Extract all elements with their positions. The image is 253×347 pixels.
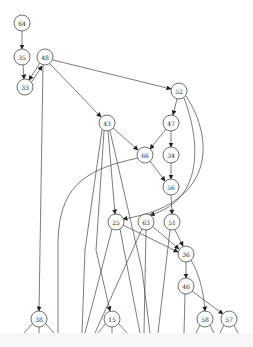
edge-66-down [58, 158, 138, 333]
edge-38-out3 [45, 323, 54, 333]
node-63[interactable]: 63 [138, 214, 154, 230]
node-label: 35 [18, 54, 26, 61]
graph-canvas: 64 35 48 33 52 43 47 66 34 56 25 63 51 3… [0, 0, 253, 347]
node-label: 46 [182, 283, 190, 290]
node-label: 56 [167, 184, 175, 191]
edge-51-36 [175, 230, 183, 246]
nodes: 64 35 48 33 52 43 47 66 34 56 25 63 51 3… [14, 15, 237, 327]
node-51[interactable]: 51 [164, 214, 180, 230]
node-label: 51 [168, 219, 176, 226]
node-label: 25 [112, 219, 120, 226]
edge-43-25 [108, 131, 115, 214]
edge-57-out1 [220, 325, 224, 333]
edge-43-66 [113, 128, 138, 150]
node-43[interactable]: 43 [99, 115, 115, 131]
node-35[interactable]: 35 [14, 49, 30, 65]
edge-48-38 [39, 65, 43, 311]
node-46[interactable]: 46 [178, 278, 194, 294]
edge-35-33 [23, 65, 24, 79]
edge-66-56 [150, 161, 165, 181]
node-33[interactable]: 33 [17, 79, 33, 95]
node-15[interactable]: 15 [104, 311, 120, 327]
node-label: 43 [103, 120, 111, 127]
edge-63-down2 [144, 230, 146, 333]
edge-46-57 [192, 291, 223, 314]
edge-47-66 [150, 129, 166, 149]
node-label: 15 [108, 316, 116, 323]
edge-38-out1 [24, 323, 33, 333]
bottom-band [0, 333, 253, 347]
node-56[interactable]: 56 [163, 179, 179, 195]
node-label: 38 [35, 316, 43, 323]
edge-48-52 [53, 60, 171, 89]
node-66[interactable]: 66 [137, 147, 153, 163]
node-48[interactable]: 48 [37, 49, 53, 65]
node-label: 47 [167, 120, 175, 127]
edge-25-down2 [120, 229, 140, 333]
edges [22, 31, 238, 333]
node-47[interactable]: 47 [163, 115, 179, 131]
node-34[interactable]: 34 [163, 147, 179, 163]
node-label: 63 [142, 219, 150, 226]
node-label: 33 [21, 84, 29, 91]
edge-52-47 [173, 99, 177, 115]
edge-58-out1 [196, 325, 200, 333]
edge-58-out2 [210, 325, 214, 333]
node-38[interactable]: 38 [31, 311, 47, 327]
node-64[interactable]: 64 [14, 15, 30, 31]
node-label: 34 [167, 152, 175, 159]
edge-15-out3 [118, 323, 127, 333]
edge-48-43 [50, 64, 101, 117]
node-label: 52 [175, 88, 183, 95]
node-label: 66 [141, 152, 149, 159]
edge-43-downleft [82, 130, 102, 333]
node-label: 58 [201, 316, 209, 323]
node-57[interactable]: 57 [221, 311, 237, 327]
node-label: 48 [41, 54, 49, 61]
node-label: 36 [182, 251, 190, 258]
edge-46-down [184, 294, 185, 333]
node-label: 64 [18, 20, 26, 27]
node-25[interactable]: 25 [108, 214, 124, 230]
node-58[interactable]: 58 [197, 311, 213, 327]
edge-56-51 [171, 195, 172, 214]
node-52[interactable]: 52 [171, 83, 187, 99]
node-label: 57 [225, 316, 233, 323]
node-36[interactable]: 36 [178, 246, 194, 262]
edge-57-out2 [234, 325, 238, 333]
